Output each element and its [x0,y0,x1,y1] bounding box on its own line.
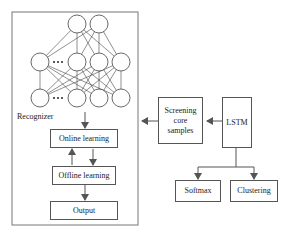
clustering-node: Clustering [230,180,278,202]
recognizer-label: Recognizer [17,112,53,121]
output-node: Output [50,201,118,220]
online-learning-node: Online learning [50,129,118,148]
screening-core-samples-node: Screening core samples [158,97,203,144]
offline-learning-node: Offline learning [52,166,116,185]
lstm-node: LSTM [222,97,252,148]
softmax-node: Softmax [175,180,221,202]
